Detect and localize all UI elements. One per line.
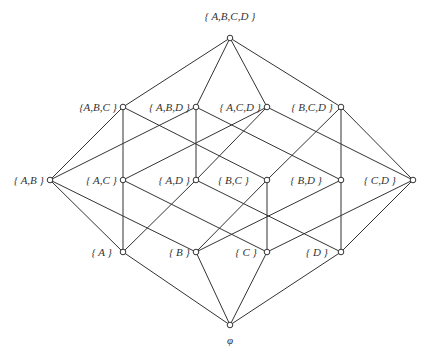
edge-BC-B [196,180,267,252]
edge-ACD-CD [267,107,413,180]
node-label-C: { C } [235,246,257,258]
node-label-AC: { A,C } [86,174,118,186]
node-label-AD: { A,D } [158,174,190,186]
node-ABC [120,104,126,110]
edge-BCD-BC [267,107,341,180]
node-label-A: { A } [91,246,112,258]
edge-ABCD-ABD [196,38,230,107]
node-label-ABC: {A,B,C } [79,101,117,113]
edge-CD-D [341,180,413,252]
node-C [264,249,270,255]
node-CD [410,177,416,183]
node-label-CD: { C,D } [364,174,397,186]
node-label-E: φ [227,334,233,346]
node-AD [193,177,199,183]
node-label-D: { D } [306,246,329,258]
edge-AD-A [123,180,196,252]
node-label-ABD: { A,B,D } [149,101,191,113]
node-AC [120,177,126,183]
node-label-AB: { A,B } [14,174,45,186]
node-BCD [338,104,344,110]
node-label-ACD: { A,C,D } [219,101,261,113]
node-BD [338,177,344,183]
node-label-BC: { B,C } [218,174,250,186]
node-label-ABCD: { A,B,C,D } [204,10,256,22]
edge-C-E [230,252,267,325]
edge-AB-A [50,180,123,252]
node-E [227,322,233,328]
edge-ABCD-ACD [230,38,267,107]
edge-D-E [230,252,341,325]
node-ACD [264,104,270,110]
edge-ACD-AD [196,107,267,180]
edge-BCD-CD [341,107,413,180]
edge-ABD-BD [196,107,341,180]
node-D [338,249,344,255]
node-ABCD [227,35,233,41]
node-AB [47,177,53,183]
edge-AC-C [123,180,267,252]
node-A [120,249,126,255]
edge-ABCD-BCD [230,38,341,107]
node-BC [264,177,270,183]
edge-ABCD-ABC [123,38,230,107]
edge-CD-C [267,180,413,252]
node-B [193,249,199,255]
node-label-BD: { B,D } [290,174,322,186]
node-label-B: { B } [169,246,191,258]
edge-A-E [123,252,230,325]
edge-ABC-AB [50,107,123,180]
node-ABD [193,104,199,110]
edge-B-E [196,252,230,325]
node-label-BCD: { B,C,D } [291,101,333,113]
hasse-diagram: { A,B,C,D }{A,B,C }{ A,B,D }{ A,C,D }{ B… [0,0,434,356]
